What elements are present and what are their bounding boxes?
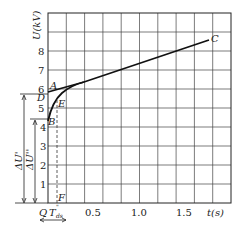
label-e: E — [57, 98, 66, 109]
x-tick-1.0: 1.0 — [131, 207, 147, 218]
label-b: B — [47, 116, 55, 127]
y-tick-8: 8 — [38, 46, 44, 57]
label-t-sup: " — [56, 203, 59, 210]
label-d: D — [36, 92, 45, 103]
delta-u1-label: ΔU' — [13, 152, 24, 171]
line-a-c — [48, 40, 209, 92]
label-f: F — [57, 192, 66, 203]
y-tick-3: 3 — [40, 141, 46, 152]
label-q: Q — [39, 207, 47, 218]
y-tick-1: 1 — [40, 179, 46, 190]
y-tick-4: 4 — [40, 122, 46, 133]
delta-u2-label: ΔU'' — [24, 149, 35, 171]
label-t-sub: ds — [56, 212, 63, 219]
x-axis-label: t(s) — [207, 207, 224, 218]
y-tick-7: 7 — [38, 65, 44, 76]
y-tick-5: 5 — [38, 103, 44, 114]
label-a: A — [49, 80, 57, 91]
x-tick-1.5: 1.5 — [176, 207, 192, 218]
x-tick-0.5: 0.5 — [85, 207, 101, 218]
y-tick-2: 2 — [40, 160, 46, 171]
label-c: C — [211, 33, 219, 44]
chart: 8 7 6 5 4 3 2 1 U(kV) 0.5 1.0 1.5 t(s) Δ… — [0, 0, 245, 235]
y-axis-label: U(kV) — [31, 10, 42, 40]
